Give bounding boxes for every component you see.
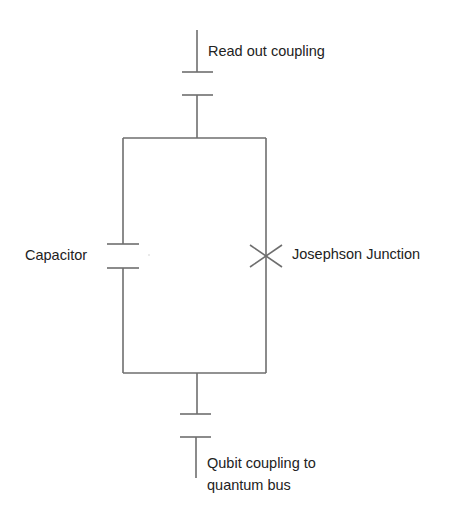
josephson-junction-label: Josephson Junction bbox=[292, 243, 420, 265]
qubit-coupling-label-line2: quantum bus bbox=[207, 474, 316, 496]
shunt-capacitor bbox=[107, 138, 139, 373]
readout-coupling-label: Read out coupling bbox=[208, 40, 325, 62]
capacitor-label: Capacitor bbox=[25, 244, 87, 266]
qubit-coupling-label: Qubit coupling to quantum bus bbox=[207, 452, 316, 496]
speck bbox=[148, 254, 150, 256]
qubit-coupling-label-line1: Qubit coupling to bbox=[207, 452, 316, 474]
circuit-loop bbox=[123, 138, 266, 373]
